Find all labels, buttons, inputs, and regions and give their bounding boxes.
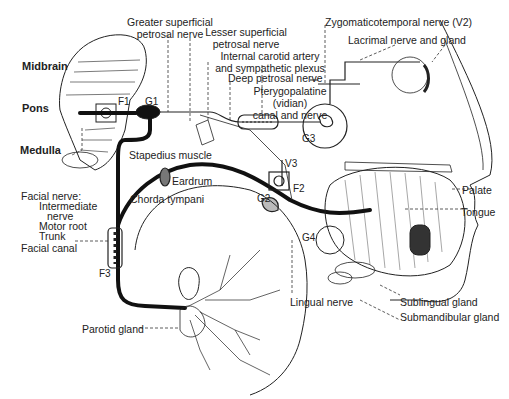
label-pterygopalatine: Pterygopalatine (vidian) canal and nerve: [250, 85, 330, 121]
eardrum-shape: [160, 168, 170, 186]
label-palate: Palate: [462, 184, 492, 196]
label-eardrum: Eardrum: [172, 175, 212, 187]
label-midbrain: Midbrain: [22, 60, 68, 72]
label-stapedius: Stapedius muscle: [129, 149, 212, 161]
marker-g2: G2: [257, 193, 270, 205]
marker-g1: G1: [145, 96, 158, 108]
marker-f3: F3: [99, 268, 111, 280]
label-sublingual-gland: Sublingual gland: [400, 296, 478, 308]
label-zygomaticotemporal: Zygomaticotemporal nerve (V2): [325, 16, 472, 28]
label-lesser-superficial-petrosal: Lesser superficial petrosal nerve: [186, 26, 306, 50]
facial-nerve-diagram: Midbrain Pons Medulla F1 G1 G2 F2 V3 G3 …: [0, 0, 509, 399]
marker-f2: F2: [293, 183, 305, 195]
marker-g3: G3: [302, 133, 315, 145]
label-lingual-nerve: Lingual nerve: [290, 296, 353, 308]
label-lacrimal: Lacrimal nerve and gland: [348, 34, 466, 46]
label-facial-nerve: Facial nerve: Intermediate nerve Motor r…: [21, 191, 97, 241]
ear: [179, 268, 200, 300]
label-parotid-gland: Parotid gland: [82, 323, 144, 335]
marker-f1: F1: [118, 96, 130, 108]
sublingual-gland-shape: [335, 262, 375, 278]
marker-g4: G4: [302, 232, 315, 244]
mandible-bone: [410, 225, 430, 255]
label-deep-petrosal: Deep petrosal nerve: [228, 72, 323, 84]
label-pons: Pons: [22, 102, 49, 114]
label-chorda-tympani: Chorda tympani: [130, 193, 204, 205]
head-outline: [135, 186, 307, 395]
label-medulla: Medulla: [20, 144, 61, 156]
marker-v3: V3: [285, 158, 297, 170]
label-tongue: Tongue: [461, 206, 495, 218]
label-facial-canal: Facial canal: [21, 242, 77, 254]
label-internal-carotid: Internal carotid artery and sympathetic …: [205, 50, 335, 74]
g4-ganglion-circle: [316, 226, 344, 254]
label-submandibular-gland: Submandibular gland: [400, 311, 499, 323]
